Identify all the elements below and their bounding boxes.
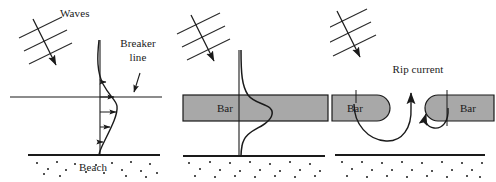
wave-crest-lines (177, 13, 230, 60)
sand-stipple (341, 161, 483, 178)
wave-crest-lines (19, 17, 72, 64)
panel-longshore-current-with-bar: Bar (165, 0, 330, 182)
breaker-line-pointer-arrow (134, 73, 140, 92)
rip-current-label: Rip current (393, 63, 444, 75)
panel-rip-current-between-bars: Rip current Bar Bar (330, 0, 496, 182)
bar-right-label: Bar (460, 102, 476, 114)
breaker-line-label-line1: Breaker (120, 37, 156, 49)
beach-label: Beach (79, 161, 107, 173)
breaker-line-label-line2: line (130, 51, 147, 63)
waves-label: Waves (60, 7, 90, 19)
sand-bar (183, 95, 328, 121)
bar-left-label: Bar (347, 102, 363, 114)
sand-stipple (188, 161, 321, 178)
panel-longshore-current-plane-beach: Waves Breaker line Beach (0, 0, 165, 182)
coastal-processes-figure: Waves Breaker line Beach (0, 0, 496, 182)
wave-crest-lines (330, 9, 376, 56)
bar-label: Bar (217, 102, 233, 114)
